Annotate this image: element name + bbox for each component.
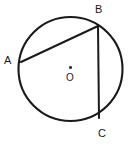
vertex-label-a: A [4,55,11,66]
center-point-dot-icon [69,66,72,69]
vertex-label-b: B [95,4,102,15]
chord-ab [21,26,98,62]
vertex-label-c: C [98,128,106,139]
geometry-figure: A B C O [0,0,137,150]
center-label-o: O [66,73,74,83]
circle-outline [19,17,123,121]
chord-bc [98,26,99,118]
